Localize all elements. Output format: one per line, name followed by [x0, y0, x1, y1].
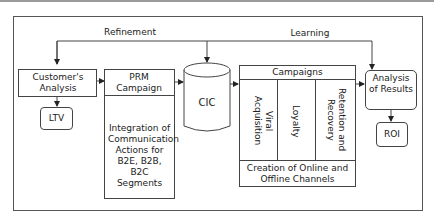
ltv-label: LTV [40, 113, 73, 124]
prm-campaign-body: Integration of Communication Actions for… [108, 123, 171, 189]
prm-campaign-title: PRM Campaign [114, 72, 164, 94]
campaigns-col-divider-1 [277, 79, 278, 160]
learning-label: Learning [280, 28, 340, 39]
campaigns-title-divider [239, 79, 356, 80]
analysis-of-results-label: Analysis of Results [368, 73, 414, 95]
campaigns-title: Campaigns [239, 67, 356, 78]
prm-divider [104, 95, 175, 96]
campaign-retention-recovery: Retention and Recovery [323, 82, 347, 158]
campaign-viral-acquisition: Viral Acquisition [252, 86, 274, 156]
refinement-label: Refinement [100, 27, 160, 38]
campaigns-footer-divider [239, 160, 356, 161]
roi-label: ROI [376, 129, 408, 140]
campaigns-col-divider-2 [315, 79, 316, 160]
campaign-loyalty: Loyalty [290, 86, 301, 156]
customers-analysis-label: Customer's Analysis [28, 72, 88, 94]
campaigns-footer: Creation of Online and Offline Channels [244, 163, 351, 185]
cic-label: CIC [190, 97, 224, 108]
